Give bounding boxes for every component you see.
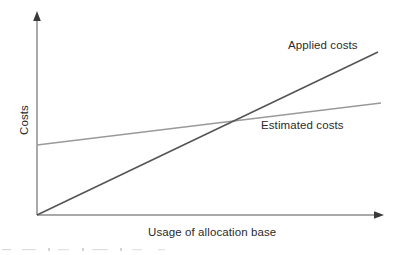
y-axis-arrowhead-icon [33, 11, 41, 21]
x-axis-label: Usage of allocation base [148, 226, 276, 238]
cost-chart-figure: Applied costs Estimated costs Usage of a… [0, 0, 405, 255]
x-axis-arrowhead-icon [374, 211, 384, 219]
applied-costs-line [37, 52, 378, 215]
y-axis-label: Costs [18, 90, 30, 150]
applied-costs-label: Applied costs [288, 39, 358, 51]
estimated-costs-label: Estimated costs [261, 119, 344, 131]
